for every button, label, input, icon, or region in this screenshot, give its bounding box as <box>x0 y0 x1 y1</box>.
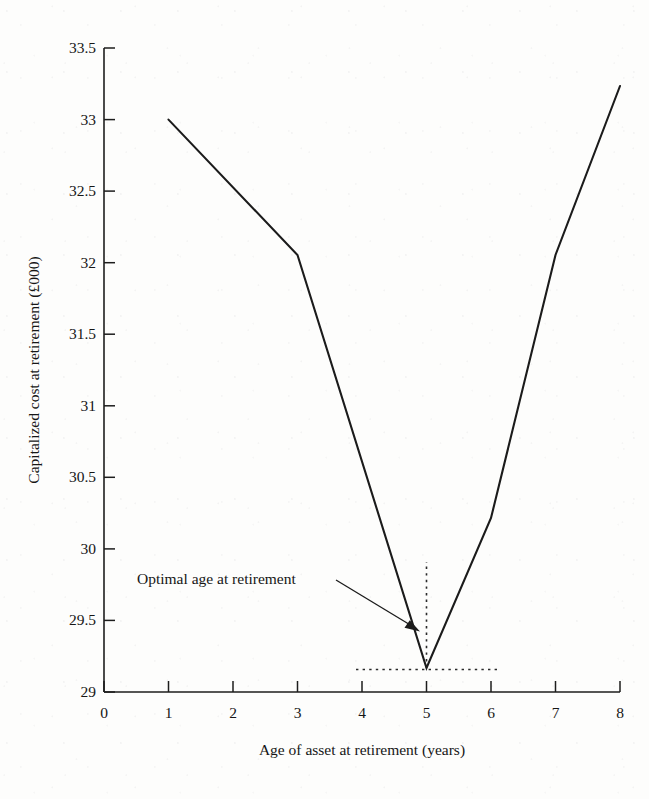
x-tick-label-6: 6 <box>487 704 495 721</box>
y-tick-label-3: 32 <box>81 254 97 271</box>
x-tick-label-7: 7 <box>552 704 560 721</box>
y-tick-label-8: 29.5 <box>69 611 96 628</box>
y-tick-label-4: 31.5 <box>69 325 96 342</box>
figure-container: 33.5 33 32.5 32 31.5 31 30.5 30 29.5 29 … <box>0 0 649 799</box>
x-tick-label-4: 4 <box>358 704 366 721</box>
y-tick-label-6: 30.5 <box>69 468 96 485</box>
x-tick-marks <box>104 681 620 692</box>
optimal-age-annotation-label: Optimal age at retirement <box>137 570 297 587</box>
x-tick-label-2: 2 <box>229 704 237 721</box>
x-tick-label-1: 1 <box>165 704 173 721</box>
y-tick-label-5: 31 <box>81 397 97 414</box>
y-tick-label-7: 30 <box>81 540 97 557</box>
line-chart: 33.5 33 32.5 32 31.5 31 30.5 30 29.5 29 … <box>0 0 649 799</box>
x-tick-label-8: 8 <box>616 704 624 721</box>
y-tick-label-2: 32.5 <box>69 182 96 199</box>
y-tick-label-0: 33.5 <box>69 39 96 56</box>
y-tick-labels: 33.5 33 32.5 32 31.5 31 30.5 30 29.5 29 <box>69 39 96 700</box>
y-axis-title: Capitalized cost at retirement (£000) <box>25 256 43 483</box>
guide-lines-group <box>356 562 497 670</box>
x-tick-labels: 0 1 2 3 4 5 6 7 8 <box>100 704 624 721</box>
x-axis-title: Age of asset at retirement (years) <box>259 741 465 759</box>
y-tick-label-1: 33 <box>81 111 97 128</box>
x-tick-label-5: 5 <box>423 704 431 721</box>
x-tick-label-3: 3 <box>294 704 302 721</box>
x-tick-label-0: 0 <box>100 704 108 721</box>
y-tick-label-9: 29 <box>81 683 97 700</box>
y-tick-marks <box>104 48 115 692</box>
